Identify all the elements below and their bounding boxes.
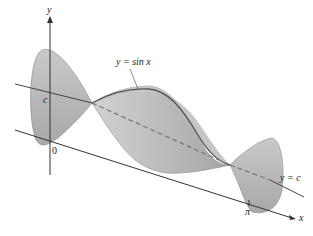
y-axis-arrow-icon [47, 16, 53, 23]
c-tick-label: c [43, 94, 48, 105]
origin-label: 0 [52, 145, 57, 156]
axis-line-label: y = c [279, 172, 301, 183]
y-axis-label: y [46, 4, 52, 15]
x-axis-label: x [298, 212, 304, 223]
middle-lobe-surface [92, 86, 230, 173]
left-lobe-surface [31, 49, 92, 145]
diagram-canvas: y x y = sin x y = c c 0 π [0, 0, 313, 236]
x-axis-arrow-icon [289, 215, 296, 220]
curve-label-leader [130, 69, 138, 89]
curve-label: y = sin x [115, 56, 151, 67]
